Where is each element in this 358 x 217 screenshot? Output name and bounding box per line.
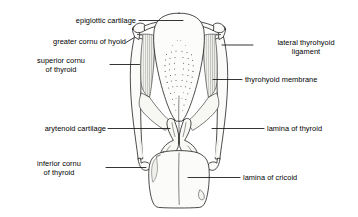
greater-cornu-of-hyoid-right-shape <box>212 23 225 33</box>
label-arytenoid-cartilage: arytenoid cartilage <box>0 124 106 133</box>
label-lamina-of-cricoid: lamina of cricoid <box>243 173 358 182</box>
label-inferior-cornu-of-thyroid: inferior cornu of thyroid <box>14 159 104 178</box>
larynx-diagram-figure: epiglottic cartilage greater cornu of hy… <box>0 0 358 217</box>
label-lateral-thyrohyoid-ligament: lateral thyrohyoid ligament <box>256 38 356 57</box>
inferior-cornu-of-thyroid-left-shape <box>138 159 150 171</box>
larynx-illustration <box>0 0 358 217</box>
label-lamina-of-thyroid: lamina of thyroid <box>267 124 358 133</box>
label-greater-cornu-of-hyoid: greater cornu of hyoid <box>0 37 126 46</box>
label-superior-cornu-of-thyroid: superior cornu of thyroid <box>14 56 108 75</box>
label-thyrohyoid-membrane: thyrohyoid membrane <box>245 75 358 84</box>
leader-greater-cornu-of-hyoid <box>126 38 134 43</box>
larynx-drawing <box>130 13 227 208</box>
label-epiglottic-cartilage: epiglottic cartilage <box>1 16 136 25</box>
inferior-cornu-of-thyroid-right-shape <box>208 159 220 171</box>
